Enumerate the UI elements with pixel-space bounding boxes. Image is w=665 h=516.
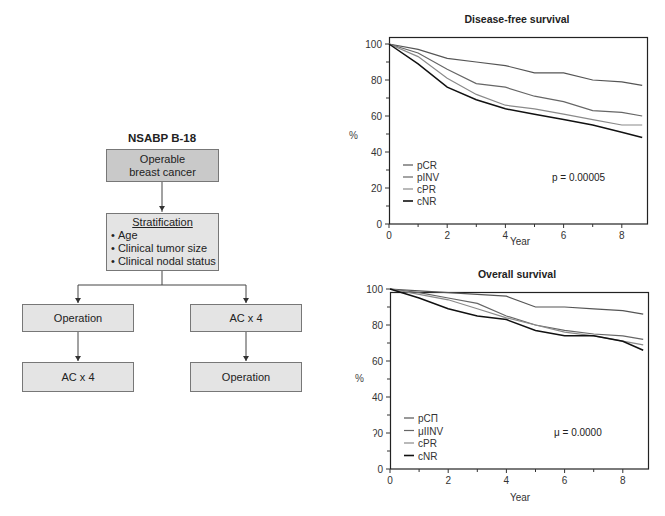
series-line-cpr bbox=[389, 44, 642, 125]
legend-label-cpr: cPR bbox=[418, 438, 437, 449]
x-tick-label: 8 bbox=[620, 475, 626, 486]
x-tick-label: 4 bbox=[504, 475, 510, 486]
arrowhead-icon bbox=[243, 356, 249, 361]
arrowhead-icon bbox=[75, 356, 81, 361]
legend-label-pinv: pINV bbox=[417, 172, 440, 183]
arrowhead-icon bbox=[159, 206, 165, 211]
x-tick-label: 0 bbox=[386, 230, 392, 241]
x-axis-label: Year bbox=[510, 236, 531, 247]
chart-overall-survival: Overall survival 0ʔ0406080100 02468 % Ye… bbox=[330, 255, 665, 505]
series-lines bbox=[389, 44, 642, 138]
y-tick-label: 60 bbox=[371, 111, 383, 122]
y-tick-label: 0 bbox=[377, 464, 383, 475]
legend-label-pinv: μIINV bbox=[418, 426, 444, 437]
x-tick-label: 2 bbox=[444, 230, 450, 241]
y-tick-label: 100 bbox=[365, 39, 382, 50]
figure-caption-faint bbox=[6, 504, 656, 510]
legend: pCRpINVcPRcNR bbox=[403, 160, 440, 207]
chart-svg: Overall survival 0ʔ0406080100 02468 % Ye… bbox=[330, 255, 665, 505]
legend-label-pcr: pCП bbox=[418, 413, 438, 424]
y-axis: 0ʔ0406080100 bbox=[366, 284, 390, 475]
diagram-connectors bbox=[0, 0, 330, 400]
x-tick-label: 6 bbox=[562, 475, 568, 486]
chart-title: Overall survival bbox=[478, 268, 556, 280]
p-value-annotation: p = 0.00005 bbox=[552, 172, 606, 183]
y-tick-label: 40 bbox=[371, 147, 383, 158]
y-axis-label: % bbox=[349, 130, 358, 141]
chart-title: Disease-free survival bbox=[464, 13, 569, 25]
y-axis-label: % bbox=[355, 373, 364, 384]
arrowhead-icon bbox=[243, 298, 249, 303]
legend-label-cpr: cPR bbox=[417, 184, 436, 195]
x-tick-label: 4 bbox=[503, 230, 509, 241]
y-tick-label: ʔ0 bbox=[372, 428, 383, 439]
series-line-pinv bbox=[389, 44, 642, 116]
y-tick-label: 80 bbox=[371, 75, 383, 86]
legend-label-cnr: cNR bbox=[418, 451, 437, 462]
y-tick-label: 100 bbox=[366, 284, 383, 295]
p-value-annotation: μ = 0.0000 bbox=[554, 427, 602, 438]
x-tick-label: 8 bbox=[619, 230, 625, 241]
arrowhead-icon bbox=[75, 298, 81, 303]
y-tick-label: 80 bbox=[372, 320, 384, 331]
y-tick-label: 0 bbox=[376, 219, 382, 230]
y-tick-label: 40 bbox=[372, 392, 384, 403]
y-tick-label: 20 bbox=[371, 183, 383, 194]
y-tick-label: 60 bbox=[372, 356, 384, 367]
x-tick-label: 6 bbox=[561, 230, 567, 241]
legend: pCПμIINVcPRcNR bbox=[404, 413, 444, 462]
series-line-pcr bbox=[389, 44, 642, 85]
x-axis-label: Year bbox=[510, 492, 531, 503]
x-axis: 02468 bbox=[387, 469, 626, 486]
series-line-cpr bbox=[390, 289, 643, 345]
chart-svg: Disease-free survival 020406080100 02468… bbox=[330, 0, 665, 250]
x-axis: 02468 bbox=[386, 224, 625, 241]
legend-label-pcr: pCR bbox=[417, 160, 437, 171]
x-tick-label: 2 bbox=[445, 475, 451, 486]
x-tick-label: 0 bbox=[387, 475, 393, 486]
chart-disease-free-survival: Disease-free survival 020406080100 02468… bbox=[330, 0, 665, 250]
legend-label-cnr: cNR bbox=[417, 196, 436, 207]
series-lines bbox=[390, 289, 643, 350]
y-axis: 020406080100 bbox=[365, 39, 389, 230]
